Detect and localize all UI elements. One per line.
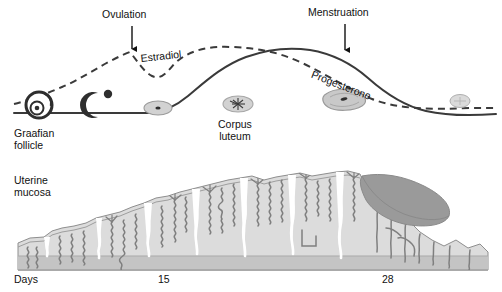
corpus-luteum-label: Corpus luteum bbox=[218, 118, 252, 142]
corpus-luteum-icon bbox=[223, 96, 253, 112]
uterine-mucosa-panel bbox=[18, 171, 488, 271]
hormone-curve-panel bbox=[14, 24, 496, 118]
days-axis-label: Days bbox=[14, 273, 38, 285]
endometrium-basal-layer bbox=[18, 256, 488, 270]
graafian-follicle-icon bbox=[26, 92, 52, 118]
day-tick-28: 28 bbox=[382, 273, 394, 285]
ovulation-label: Ovulation bbox=[102, 8, 146, 20]
early-corpus-luteum-icon bbox=[144, 101, 172, 115]
menstrual-cycle-diagram: Ovulation Menstruation Estradiol Progest… bbox=[0, 0, 502, 292]
graafian-follicle-label: Graafian follicle bbox=[14, 127, 54, 151]
progesterone-curve bbox=[14, 49, 496, 116]
corpus-albicans-icon bbox=[450, 95, 470, 108]
day-tick-15: 15 bbox=[158, 273, 170, 285]
uterine-mucosa-label: Uterine mucosa bbox=[14, 174, 51, 198]
menstruation-label: Menstruation bbox=[308, 6, 369, 18]
diagram-canvas bbox=[0, 0, 502, 292]
